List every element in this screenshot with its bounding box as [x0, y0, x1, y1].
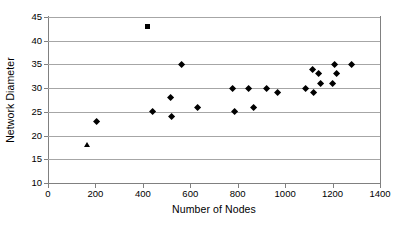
data-point-diamond	[348, 61, 355, 68]
gridline-horizontal	[48, 112, 380, 113]
gridline-horizontal	[48, 159, 380, 160]
data-point-diamond	[194, 103, 201, 110]
gridline-horizontal	[48, 136, 380, 137]
gridline-horizontal	[48, 41, 380, 42]
x-axis-tick-label: 1000	[265, 188, 305, 199]
data-point-diamond	[168, 113, 175, 120]
y-axis-tick	[44, 17, 48, 18]
y-axis-tick-label: 35	[18, 59, 42, 69]
data-point-triangle	[84, 142, 90, 147]
data-point-diamond	[166, 94, 173, 101]
y-axis-tick	[44, 41, 48, 42]
x-axis-tick-label: 1200	[313, 188, 353, 199]
y-axis-tick	[44, 159, 48, 160]
y-axis-tick-label: 20	[18, 131, 42, 141]
x-axis-tick-label: 200	[75, 188, 115, 199]
data-point-diamond	[302, 84, 309, 91]
y-axis-tick	[44, 64, 48, 65]
x-axis-tick-label: 600	[170, 188, 210, 199]
scatter-chart: Network Diameter 1015202530354045 Number…	[0, 0, 403, 225]
y-axis-tick	[44, 112, 48, 113]
data-point-diamond	[245, 84, 252, 91]
y-axis-tick-label: 40	[18, 36, 42, 46]
plot-area	[48, 17, 380, 183]
data-point-diamond	[315, 70, 322, 77]
data-point-diamond	[149, 108, 156, 115]
y-axis-tick-label: 30	[18, 83, 42, 93]
data-point-diamond	[230, 108, 237, 115]
x-axis-tick-label: 1400	[360, 188, 400, 199]
x-axis-tick-label: 800	[218, 188, 258, 199]
data-point-square	[145, 24, 150, 29]
y-axis-tick-label: 25	[18, 107, 42, 117]
x-axis-line	[48, 183, 381, 184]
data-point-diamond	[329, 80, 336, 87]
y-axis-tick-label: 45	[18, 12, 42, 22]
data-point-diamond	[317, 80, 324, 87]
data-point-diamond	[262, 84, 269, 91]
data-point-diamond	[274, 89, 281, 96]
gridline-horizontal	[48, 17, 380, 18]
data-point-diamond	[178, 61, 185, 68]
data-point-diamond	[229, 84, 236, 91]
x-axis-tick-label: 400	[123, 188, 163, 199]
data-point-diamond	[249, 103, 256, 110]
x-axis-title: Number of Nodes	[48, 203, 380, 215]
data-point-diamond	[310, 89, 317, 96]
data-point-diamond	[93, 118, 100, 125]
plot-right-border	[380, 16, 381, 184]
y-axis-tick-label: 15	[18, 154, 42, 164]
gridline-horizontal	[48, 88, 380, 89]
y-axis-tick-label: 10	[18, 178, 42, 188]
y-axis-tick	[44, 88, 48, 89]
data-point-diamond	[332, 70, 339, 77]
x-axis-tick-label: 0	[28, 188, 68, 199]
y-axis-tick	[44, 136, 48, 137]
data-point-diamond	[331, 61, 338, 68]
